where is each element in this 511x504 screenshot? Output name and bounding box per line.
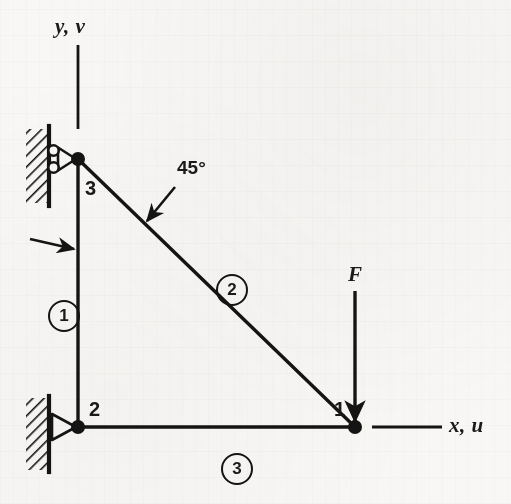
node-1-label: 1 (334, 399, 345, 419)
x-axis-label: x, u (449, 415, 484, 436)
truss-figure: y, v x, u 3 2 1 45° F 1 2 3 (0, 0, 511, 504)
node-1-joint (348, 420, 362, 434)
truss-diagram-canvas (0, 0, 511, 504)
node-2-joint (71, 420, 85, 434)
force-label: F (348, 264, 362, 285)
node-2-label: 2 (89, 399, 100, 419)
member-1-leader-arrow (30, 239, 74, 249)
node-3-label: 3 (85, 178, 96, 198)
member-3-badge: 3 (221, 453, 253, 485)
member-1-number: 1 (50, 306, 78, 326)
member-2-number: 2 (218, 280, 246, 300)
wall-lower-left (26, 396, 49, 472)
member-3-number: 3 (223, 459, 251, 479)
member-2-badge: 2 (216, 274, 248, 306)
member-1-badge: 1 (48, 300, 80, 332)
angle-leader-arrow (147, 187, 175, 221)
y-axis-label: y, v (55, 16, 85, 37)
wall-upper-left (26, 126, 49, 206)
node-3-joint (71, 152, 85, 166)
angle-label: 45° (177, 158, 206, 177)
